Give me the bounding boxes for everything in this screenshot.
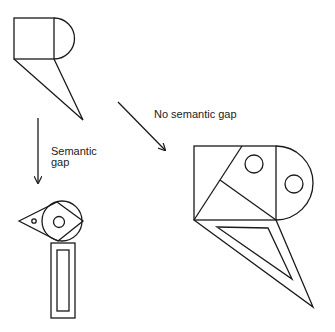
eye-dot — [32, 219, 36, 223]
source-triangle — [14, 59, 83, 120]
semantic-gap-label-line2: gap — [51, 156, 69, 168]
square-circle — [245, 155, 263, 173]
body-outer-rect — [51, 243, 75, 318]
diagram-canvas: Semantic gap No semantic gap — [0, 0, 335, 332]
body-inner-rect — [57, 250, 69, 311]
semantic-gap-result — [19, 201, 83, 318]
no-semantic-gap-result — [194, 146, 313, 307]
no-semantic-gap-label: No semantic gap — [154, 108, 237, 120]
source-semicircle — [54, 18, 74, 59]
inner-circle — [54, 217, 65, 228]
head-circle — [42, 201, 82, 241]
diagonal-line — [194, 146, 242, 220]
large-semicircle — [276, 146, 313, 220]
source-square — [14, 18, 54, 59]
source-figure — [14, 18, 83, 120]
semicircle-circle — [285, 175, 303, 193]
beak-diamond-shape — [19, 202, 83, 241]
inset-triangle — [217, 227, 292, 279]
large-triangle — [194, 220, 313, 307]
inner-line — [220, 180, 276, 220]
